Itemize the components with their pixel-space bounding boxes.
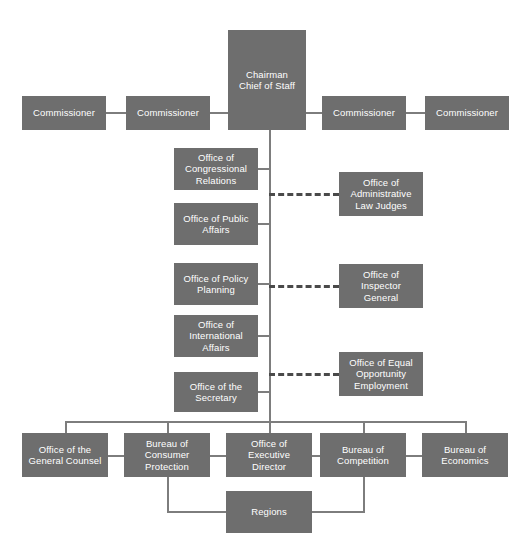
node-commissioner-3[interactable]: Commissioner — [322, 96, 406, 130]
connector-consumer-protection-down-to-regions — [167, 477, 169, 512]
node-equal-opportunity-employment-label: Office of Equal Opportunity Employment — [342, 357, 420, 391]
connector-commissioner-1-to-2 — [106, 112, 126, 114]
node-general-counsel[interactable]: Office of the General Counsel — [22, 433, 108, 477]
node-international-affairs-label: Office of International Affairs — [177, 319, 255, 353]
node-commissioner-4[interactable]: Commissioner — [425, 96, 509, 130]
node-general-counsel-label: Office of the General Counsel — [25, 444, 105, 466]
node-public-affairs[interactable]: Office of Public Affairs — [174, 203, 258, 245]
connector-spine-to-public-affairs — [258, 223, 270, 225]
node-competition-label: Bureau of Competition — [323, 444, 403, 466]
node-competition[interactable]: Bureau of Competition — [320, 433, 406, 477]
node-executive-director[interactable]: Office of Executive Director — [226, 433, 312, 477]
connector-commissioner-3-to-4 — [406, 112, 425, 114]
connector-consumer-protection-to-executive-director — [210, 455, 226, 457]
node-administrative-law-judges-label: Office of Administrative Law Judges — [342, 177, 420, 211]
connector-competition-to-economics — [406, 455, 422, 457]
connector-drop-competition — [363, 421, 365, 433]
node-secretary-label: Office of the Secretary — [177, 381, 255, 403]
connector-regions-left-arm — [167, 511, 226, 513]
connector-central-spine — [269, 130, 271, 422]
connector-executive-director-to-competition — [312, 455, 320, 457]
connector-drop-executive-director — [269, 421, 271, 433]
connector-spine-to-administrative-law-judges — [269, 193, 339, 196]
node-policy-planning-label: Office of Policy Planning — [177, 273, 255, 295]
node-congressional-relations[interactable]: Office of Congressional Relations — [174, 148, 258, 190]
connector-competition-down-to-regions — [363, 477, 365, 512]
connector-commissioner-2-to-chairman — [210, 112, 228, 114]
connector-general-counsel-to-consumer-protection — [108, 455, 124, 457]
node-congressional-relations-label: Office of Congressional Relations — [177, 152, 255, 186]
connector-drop-general-counsel — [65, 421, 67, 433]
node-commissioner-3-label: Commissioner — [325, 107, 403, 118]
connector-spine-to-equal-opportunity-employment — [269, 373, 339, 376]
node-inspector-general-label: Office of Inspector General — [342, 269, 420, 303]
node-chairman[interactable]: Chairman Chief of Staff — [228, 30, 306, 130]
node-commissioner-2[interactable]: Commissioner — [126, 96, 210, 130]
node-chairman-label: Chairman Chief of Staff — [231, 69, 303, 91]
node-commissioner-1-label: Commissioner — [25, 107, 103, 118]
connector-regions-right-arm — [312, 511, 365, 513]
node-economics-label: Bureau of Economics — [425, 444, 505, 466]
node-executive-director-label: Office of Executive Director — [229, 438, 309, 472]
connector-drop-economics — [465, 421, 467, 433]
node-international-affairs[interactable]: Office of International Affairs — [174, 315, 258, 357]
connector-chairman-to-commissioner-3 — [306, 112, 322, 114]
node-regions-label: Regions — [229, 506, 309, 517]
org-chart: Chairman Chief of Staff Commissioner Com… — [0, 0, 528, 553]
node-regions[interactable]: Regions — [226, 491, 312, 533]
node-public-affairs-label: Office of Public Affairs — [177, 213, 255, 235]
node-secretary[interactable]: Office of the Secretary — [174, 372, 258, 412]
connector-drop-consumer-protection — [167, 421, 169, 433]
node-commissioner-4-label: Commissioner — [428, 107, 506, 118]
node-commissioner-2-label: Commissioner — [129, 107, 207, 118]
node-equal-opportunity-employment[interactable]: Office of Equal Opportunity Employment — [339, 352, 423, 396]
node-commissioner-1[interactable]: Commissioner — [22, 96, 106, 130]
node-administrative-law-judges[interactable]: Office of Administrative Law Judges — [339, 172, 423, 216]
connector-spine-to-inspector-general — [269, 285, 339, 288]
connector-bottom-distribution-bar — [65, 421, 465, 423]
node-consumer-protection-label: Bureau of Consumer Protection — [127, 438, 207, 472]
connector-spine-to-international-affairs — [258, 335, 270, 337]
node-economics[interactable]: Bureau of Economics — [422, 433, 508, 477]
node-inspector-general[interactable]: Office of Inspector General — [339, 264, 423, 308]
node-policy-planning[interactable]: Office of Policy Planning — [174, 263, 258, 305]
connector-spine-to-congressional-relations — [258, 168, 270, 170]
connector-spine-to-secretary — [258, 391, 270, 393]
node-consumer-protection[interactable]: Bureau of Consumer Protection — [124, 433, 210, 477]
